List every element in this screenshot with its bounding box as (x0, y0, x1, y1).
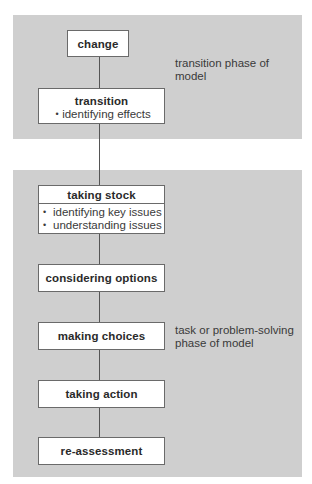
connector-change-transition (99, 57, 100, 88)
step-title: considering options (46, 271, 158, 285)
step-making-choices: making choices (38, 322, 165, 350)
step-title: re-assessment (61, 444, 143, 458)
bullet-item: identifying key issues (43, 206, 164, 219)
step-taking-stock: taking stock identifying key issues unde… (38, 185, 165, 234)
step-bullets: identifying key issues understanding iss… (39, 204, 164, 232)
step-considering-options: considering options (38, 264, 165, 292)
transition-phase-label: transition phase of model (175, 57, 295, 83)
step-bullets: identifying effects (39, 108, 164, 121)
step-title: transition (39, 94, 164, 108)
step-title: taking action (65, 387, 137, 401)
bullet-item: understanding issues (43, 219, 164, 232)
step-title: taking stock (39, 186, 164, 204)
step-transition: transition identifying effects (38, 88, 165, 124)
task-phase-label: task or problem-solving phase of model (175, 324, 303, 350)
step-taking-action: taking action (38, 380, 165, 408)
step-re-assessment: re-assessment (38, 437, 165, 465)
step-title: making choices (58, 329, 146, 343)
connector-considering-making (99, 292, 100, 322)
step-title: change (78, 37, 119, 51)
connector-taking-stock-considering (99, 234, 100, 264)
connector-transition-taking-stock (99, 124, 100, 185)
bullet-item: identifying effects (39, 108, 164, 121)
connector-action-reassess (99, 408, 100, 437)
step-change: change (67, 30, 129, 57)
connector-making-action (99, 350, 100, 380)
